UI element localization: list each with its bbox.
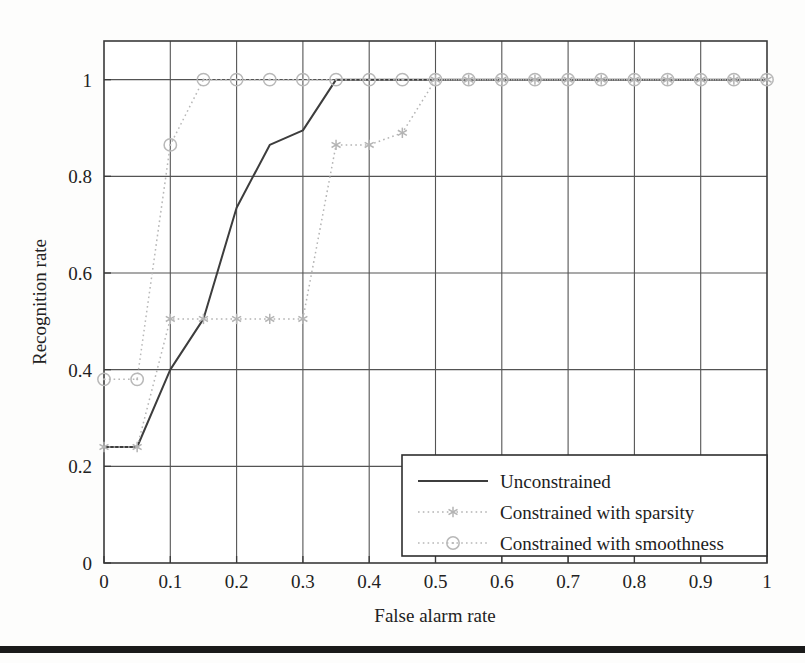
y-tick-label: 0 bbox=[83, 553, 93, 574]
y-axis-tick-labels: 00.20.40.60.81 bbox=[68, 70, 92, 574]
x-tick-label: 0.1 bbox=[158, 571, 182, 592]
roc-chart-figure: 00.10.20.30.40.50.60.70.80.91 00.20.40.6… bbox=[0, 0, 805, 640]
legend-label: Unconstrained bbox=[500, 471, 611, 492]
x-tick-label: 0.3 bbox=[291, 571, 315, 592]
x-tick-label: 0.8 bbox=[623, 571, 647, 592]
x-tick-label: 0.4 bbox=[357, 571, 381, 592]
x-tick-label: 0 bbox=[99, 571, 109, 592]
x-axis-tick-labels: 00.10.20.30.40.50.60.70.80.91 bbox=[99, 571, 772, 592]
page-root: 00.10.20.30.40.50.60.70.80.91 00.20.40.6… bbox=[0, 0, 805, 663]
y-axis-title: Recognition rate bbox=[29, 239, 50, 365]
y-tick-label: 0.2 bbox=[68, 456, 92, 477]
legend-label: Constrained with smoothness bbox=[500, 533, 724, 554]
x-tick-label: 0.2 bbox=[225, 571, 249, 592]
y-tick-label: 0.6 bbox=[68, 263, 92, 284]
x-tick-label: 0.5 bbox=[424, 571, 448, 592]
x-tick-label: 0.7 bbox=[556, 571, 580, 592]
x-tick-label: 0.6 bbox=[490, 571, 514, 592]
x-tick-label: 0.9 bbox=[689, 571, 713, 592]
page-footer-rule bbox=[0, 646, 805, 653]
x-tick-label: 1 bbox=[762, 571, 772, 592]
chart-canvas: 00.10.20.30.40.50.60.70.80.91 00.20.40.6… bbox=[0, 0, 805, 640]
legend-label: Constrained with sparsity bbox=[500, 502, 695, 523]
y-tick-label: 0.4 bbox=[68, 360, 92, 381]
chart-legend: UnconstrainedConstrained with sparsityCo… bbox=[402, 455, 767, 556]
y-tick-label: 1 bbox=[83, 70, 93, 91]
y-tick-label: 0.8 bbox=[68, 166, 92, 187]
x-axis-title: False alarm rate bbox=[374, 605, 495, 626]
